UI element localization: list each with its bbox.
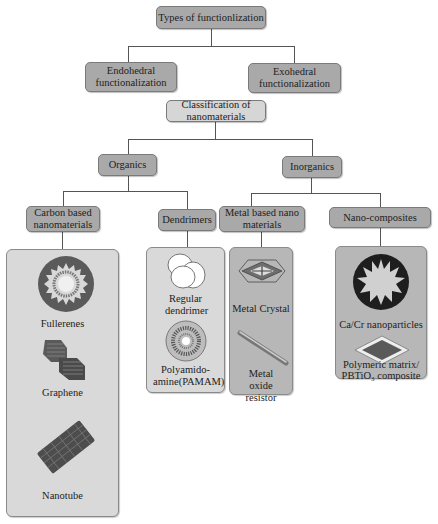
metal-node: Metal based nano materials bbox=[219, 206, 305, 232]
dendrimers-node: Dendrimers bbox=[158, 209, 216, 231]
connector bbox=[128, 46, 294, 47]
metal-label: Metal based nano materials bbox=[220, 207, 304, 231]
organics-node: Organics bbox=[98, 154, 157, 176]
classification-node: Classification of nanomaterials bbox=[166, 100, 266, 122]
pamam-icon bbox=[165, 320, 207, 362]
graphene-icon bbox=[39, 336, 89, 386]
connector bbox=[128, 176, 129, 191]
regular-dendrimer-icon bbox=[163, 252, 209, 292]
inorganics-node: Inorganics bbox=[282, 156, 342, 178]
carbon-panel: Fullerenes Graphene Nanotube bbox=[6, 249, 119, 517]
graphene-label: Graphene bbox=[7, 387, 118, 399]
connector bbox=[63, 191, 188, 192]
connector bbox=[63, 191, 64, 206]
connector bbox=[211, 29, 212, 46]
metal-oxide-resistor-label: Metal oxide resistor bbox=[240, 368, 282, 404]
inorganics-label: Inorganics bbox=[290, 161, 334, 173]
dendrimers-panel: Regular dendrimer Polyamido-amine(PAMAM) bbox=[146, 247, 225, 393]
pamam-label: Polyamido-amine(PAMAM) bbox=[153, 364, 218, 388]
classification-label: Classification of nanomaterials bbox=[167, 99, 265, 123]
connector bbox=[187, 191, 188, 209]
endohedral-label: Endohedral functionalization bbox=[86, 65, 176, 89]
connector bbox=[380, 193, 381, 207]
nanotube-label: Nanotube bbox=[7, 490, 118, 502]
connector bbox=[128, 46, 129, 62]
connector bbox=[294, 46, 295, 63]
fullerenes-label: Fullerenes bbox=[7, 318, 118, 330]
nanotube-icon bbox=[33, 418, 99, 476]
carbon-node: Carbon based nanomaterials bbox=[26, 206, 100, 232]
exohedral-label: Exohedral functionalization bbox=[249, 66, 340, 90]
connector bbox=[128, 139, 312, 140]
connector bbox=[380, 228, 381, 246]
metal-oxide-resistor-icon bbox=[236, 330, 290, 366]
carbon-label: Carbon based nanomaterials bbox=[27, 207, 99, 231]
organics-label: Organics bbox=[109, 159, 147, 171]
root-label: Types of functionlization bbox=[158, 12, 263, 24]
regular-dendrimer-label: Regular dendrimer bbox=[165, 293, 206, 317]
ca-cr-nanoparticle-icon bbox=[352, 253, 410, 311]
connector bbox=[215, 122, 216, 140]
nanocomposites-panel: Ca/Cr nanoparticles Polymeric matrix/ PB… bbox=[335, 246, 427, 379]
polymeric-matrix-label: Polymeric matrix/ PBTiO₃ composite bbox=[340, 359, 422, 381]
metal-crystal-icon bbox=[238, 258, 286, 284]
nanocomposites-node: Nano-composites bbox=[329, 207, 431, 228]
connector bbox=[187, 231, 188, 247]
nanocomposites-label: Nano-composites bbox=[343, 212, 417, 224]
connector bbox=[128, 139, 129, 154]
connector bbox=[62, 232, 63, 249]
connector bbox=[312, 139, 313, 156]
connector bbox=[251, 193, 381, 194]
root-node: Types of functionlization bbox=[156, 6, 266, 29]
connector bbox=[261, 232, 262, 247]
metal-panel: Metal Crystal Metal oxide resistor bbox=[229, 247, 293, 395]
exohedral-node: Exohedral functionalization bbox=[248, 63, 341, 93]
metal-crystal-label: Metal Crystal bbox=[230, 303, 292, 315]
ca-cr-label: Ca/Cr nanoparticles bbox=[336, 319, 426, 331]
endohedral-node: Endohedral functionalization bbox=[85, 62, 177, 92]
dendrimers-label: Dendrimers bbox=[162, 214, 212, 226]
fullerene-icon bbox=[37, 255, 95, 313]
connector bbox=[251, 193, 252, 207]
connector bbox=[311, 178, 312, 193]
